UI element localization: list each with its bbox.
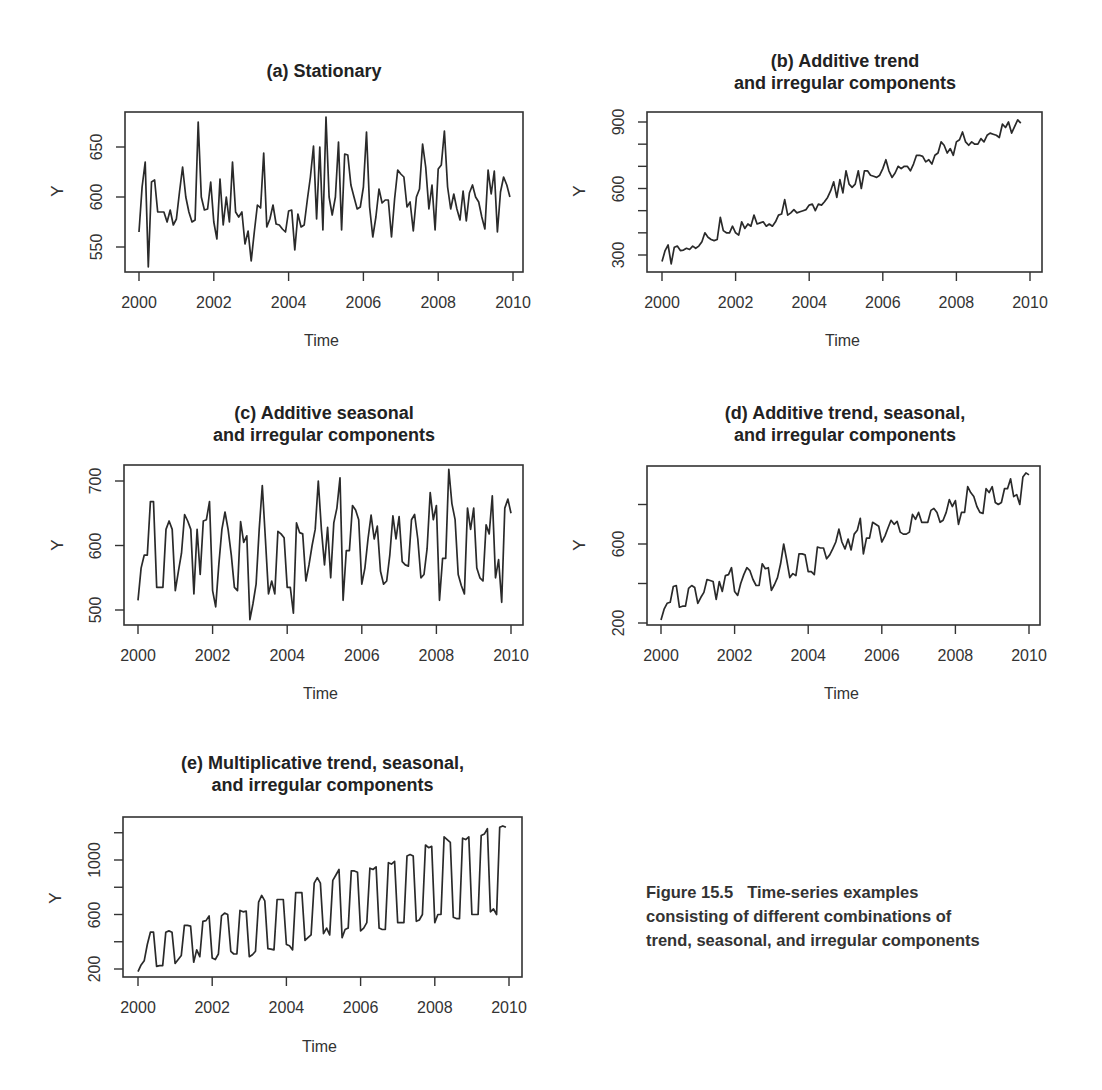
panel-a — [116, 112, 523, 281]
series-line — [661, 473, 1029, 620]
series-line — [139, 117, 510, 267]
figure-number: Figure 15.5 — [646, 883, 733, 901]
panel-b — [638, 112, 1042, 281]
figure-caption: Figure 15.5Time-series examples consisti… — [646, 880, 980, 952]
series-line — [138, 469, 511, 619]
panel-d — [638, 466, 1040, 634]
caption-line-2: consisting of different combinations of — [646, 904, 980, 928]
panel-c — [115, 465, 523, 634]
series-line — [138, 826, 506, 972]
panel-e — [114, 817, 522, 986]
caption-line-3: trend, seasonal, and irregular component… — [646, 928, 980, 952]
caption-line-1: Time-series examples — [747, 883, 918, 901]
series-line — [662, 120, 1021, 264]
plot-frame — [647, 112, 1042, 272]
